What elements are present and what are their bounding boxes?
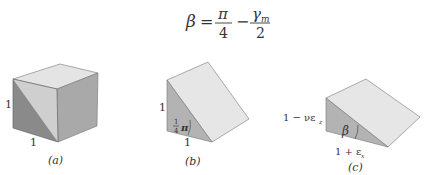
equation-minus: − <box>236 12 249 31</box>
figure-b-wedge: 1 1 4 π 1 (b) <box>159 62 249 168</box>
equation-gamma: γ <box>252 5 261 23</box>
wedge-b-angle-num: 1 <box>174 118 178 126</box>
wedge-b-angle-pi: π <box>180 122 189 133</box>
figure-canvas: β = π 4 − γ m 2 1 1 (a) 1 1 4 π 1 (b) <box>0 0 425 175</box>
cube-bottom-label: 1 <box>30 136 37 149</box>
equation: β = π 4 − γ m 2 <box>185 5 270 41</box>
wedge-b-side-label: 1 <box>159 101 166 114</box>
wedge-c-bottom-label: 1 + ε <box>335 146 361 157</box>
wedge-b-bottom-label: 1 <box>184 136 191 149</box>
equation-pi: π <box>217 5 229 23</box>
equation-two: 2 <box>256 25 265 41</box>
wedge-c-angle-label: β <box>341 124 349 138</box>
wedge-c-side-label-sub: z <box>318 118 323 125</box>
wedge-b-angle-den: 4 <box>174 127 179 135</box>
caption-b: (b) <box>185 155 201 168</box>
figure-c-wedge: β 1 − νε z 1 + ε x (c) <box>283 79 420 174</box>
caption-c: (c) <box>348 161 363 174</box>
equation-beta: β <box>185 11 196 31</box>
equation-gamma-sub: m <box>261 14 270 24</box>
caption-a: (a) <box>48 154 63 167</box>
equation-equals: = <box>200 12 213 31</box>
cube-side-label: 1 <box>5 98 12 111</box>
figure-a-cube: 1 1 (a) <box>5 64 98 167</box>
equation-four: 4 <box>219 25 228 41</box>
wedge-c-side-label: 1 − νε <box>283 112 315 123</box>
wedge-c-bottom-label-sub: x <box>361 152 365 159</box>
